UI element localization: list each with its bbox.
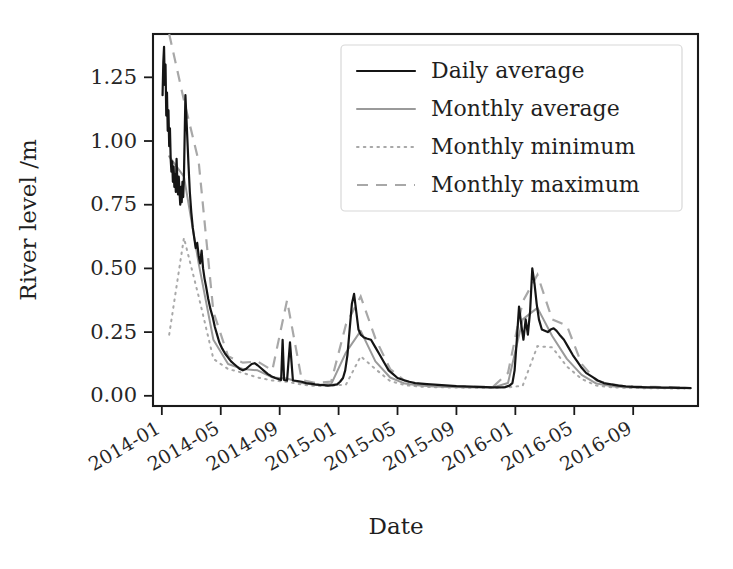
legend-label: Monthly minimum: [431, 134, 636, 159]
chart-legend: Daily averageMonthly averageMonthly mini…: [341, 45, 682, 211]
y-axis-title: River level /m: [15, 139, 41, 301]
x-tick-marks: [162, 406, 633, 415]
x-axis-title: Date: [368, 513, 423, 539]
y-tick-label: 0.75: [90, 192, 137, 216]
y-tick-label: 0.00: [90, 383, 137, 407]
y-tick-label: 0.25: [90, 320, 137, 344]
legend-label: Monthly average: [431, 96, 620, 121]
x-tick-labels: 2014-012014-052014-092015-012015-052015-…: [84, 416, 635, 475]
y-tick-marks: [144, 77, 153, 395]
y-tick-label: 1.25: [90, 65, 137, 89]
y-tick-label: 1.00: [90, 129, 137, 153]
figure-container: 0.000.250.500.751.001.25 2014-012014-052…: [0, 0, 733, 569]
river-level-chart: 0.000.250.500.751.001.25 2014-012014-052…: [0, 0, 733, 569]
y-tick-labels: 0.000.250.500.751.001.25: [90, 65, 137, 407]
y-tick-label: 0.50: [90, 256, 137, 280]
legend-label: Monthly maximum: [431, 172, 640, 197]
legend-label: Daily average: [431, 58, 585, 83]
